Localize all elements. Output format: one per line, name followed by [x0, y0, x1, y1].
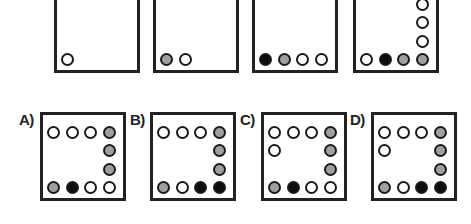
black-circle-icon — [194, 181, 207, 194]
option-label: D) — [350, 111, 365, 128]
gray-circle-icon — [416, 53, 429, 66]
answer-option-d[interactable] — [371, 112, 457, 201]
white-circle-icon — [296, 53, 309, 66]
black-circle-icon — [213, 181, 226, 194]
gray-circle-icon — [103, 163, 116, 176]
gray-circle-icon — [103, 126, 116, 139]
option-label: A) — [19, 111, 34, 128]
white-circle-icon — [305, 181, 318, 194]
white-circle-icon — [397, 181, 410, 194]
gray-circle-icon — [434, 126, 447, 139]
black-circle-icon — [379, 53, 392, 66]
white-circle-icon — [397, 126, 410, 139]
white-circle-icon — [416, 16, 429, 29]
white-circle-icon — [61, 53, 74, 66]
gray-circle-icon — [213, 163, 226, 176]
gray-circle-icon — [324, 126, 337, 139]
white-circle-icon — [305, 126, 318, 139]
white-circle-icon — [47, 126, 60, 139]
white-circle-icon — [176, 126, 189, 139]
white-circle-icon — [378, 126, 391, 139]
white-circle-icon — [66, 126, 79, 139]
gray-circle-icon — [47, 181, 60, 194]
sequence-panel-2 — [153, 0, 239, 73]
black-circle-icon — [259, 53, 272, 66]
option-label: C) — [240, 111, 255, 128]
answer-option-b[interactable] — [150, 112, 236, 201]
black-circle-icon — [415, 181, 428, 194]
white-circle-icon — [157, 126, 170, 139]
gray-circle-icon — [213, 144, 226, 157]
white-circle-icon — [268, 126, 281, 139]
sequence-panel-1 — [54, 0, 140, 73]
white-circle-icon — [360, 53, 373, 66]
sequence-panel-4 — [353, 0, 439, 73]
white-circle-icon — [378, 144, 391, 157]
white-circle-icon — [415, 126, 428, 139]
white-circle-icon — [268, 144, 281, 157]
gray-circle-icon — [278, 53, 291, 66]
white-circle-icon — [84, 181, 97, 194]
gray-circle-icon — [160, 53, 173, 66]
white-circle-icon — [416, 0, 429, 11]
gray-circle-icon — [103, 144, 116, 157]
white-circle-icon — [315, 53, 328, 66]
black-circle-icon — [434, 181, 447, 194]
gray-circle-icon — [324, 144, 337, 157]
gray-circle-icon — [157, 181, 170, 194]
gray-circle-icon — [397, 53, 410, 66]
black-circle-icon — [287, 181, 300, 194]
white-circle-icon — [287, 126, 300, 139]
gray-circle-icon — [268, 181, 281, 194]
gray-circle-icon — [378, 181, 391, 194]
gray-circle-icon — [434, 163, 447, 176]
white-circle-icon — [84, 126, 97, 139]
white-circle-icon — [416, 35, 429, 48]
gray-circle-icon — [434, 144, 447, 157]
white-circle-icon — [194, 126, 207, 139]
answer-option-a[interactable] — [40, 112, 126, 201]
option-label: B) — [130, 111, 145, 128]
answer-option-c[interactable] — [261, 112, 347, 201]
sequence-panel-3 — [252, 0, 338, 73]
black-circle-icon — [66, 181, 79, 194]
white-circle-icon — [103, 181, 116, 194]
gray-circle-icon — [213, 126, 226, 139]
white-circle-icon — [324, 181, 337, 194]
white-circle-icon — [179, 53, 192, 66]
white-circle-icon — [176, 181, 189, 194]
gray-circle-icon — [324, 163, 337, 176]
